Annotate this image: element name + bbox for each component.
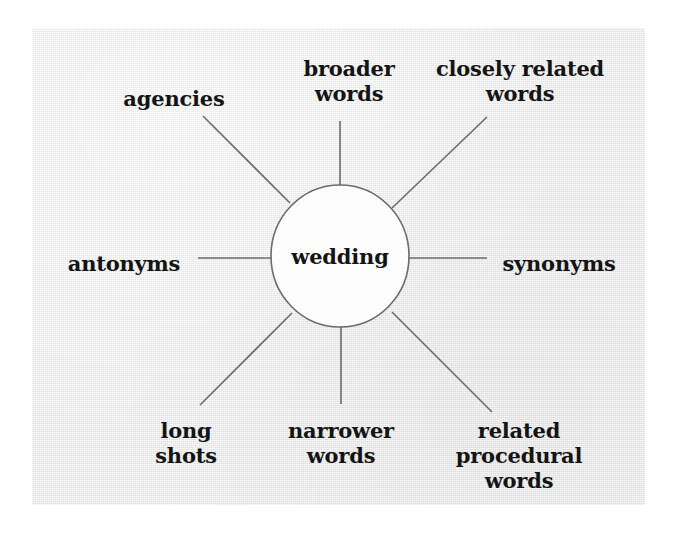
spider-diagram: wedding agenciesbroader wordsclosely rel… [0, 0, 681, 537]
spoke-label-narrower-words: narrower words [288, 418, 394, 468]
spoke-label-synonyms: synonyms [502, 251, 615, 276]
spoke-line-related-procedural-words [392, 312, 492, 412]
spoke-label-antonyms: antonyms [68, 251, 181, 276]
spoke-line-long-shots [200, 313, 292, 405]
spoke-line-agencies [203, 116, 290, 203]
center-node-label: wedding [291, 244, 388, 269]
spoke-label-closely-related-words: closely related words [436, 56, 604, 106]
spoke-label-broader-words: broader words [303, 56, 394, 106]
spoke-label-agencies: agencies [123, 86, 224, 111]
spoke-label-long-shots: long shots [155, 418, 217, 468]
spoke-label-related-procedural-words: related procedural words [456, 418, 583, 493]
spoke-line-closely-related-words [392, 117, 487, 208]
